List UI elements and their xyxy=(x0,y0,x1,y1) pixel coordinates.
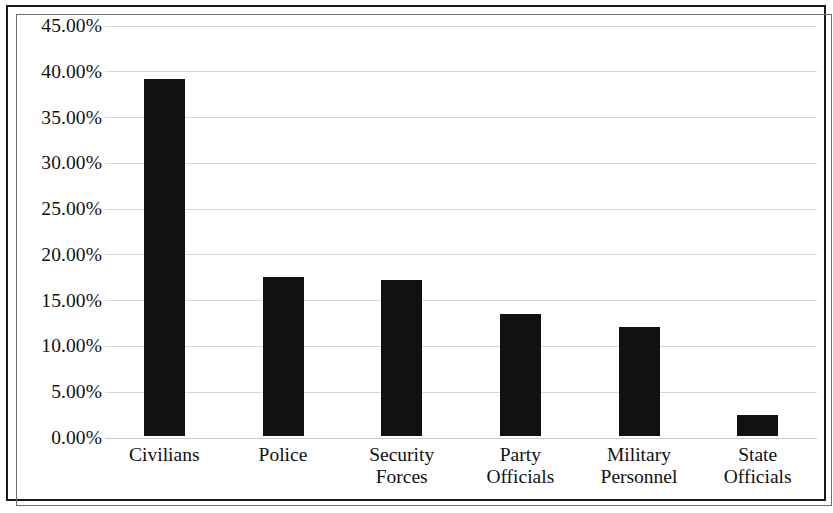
y-axis-tick-label: 20.00% xyxy=(6,245,102,265)
bar-police xyxy=(263,277,304,436)
x-axis-tick-label-line2: Officials xyxy=(461,466,580,488)
bar-military-personnel xyxy=(619,327,660,436)
x-axis-tick-label-line1: State xyxy=(738,444,777,465)
x-axis-tick-label-line2: Officials xyxy=(698,466,817,488)
bar-chart-figure: 0.00%5.00%10.00%15.00%20.00%25.00%30.00%… xyxy=(0,0,833,513)
y-axis: 0.00%5.00%10.00%15.00%20.00%25.00%30.00%… xyxy=(6,26,102,438)
x-axis-tick-label-line1: Security xyxy=(369,444,434,465)
y-axis-tick-label: 15.00% xyxy=(6,291,102,311)
x-axis-tick-label-line1: Party xyxy=(500,444,541,465)
y-axis-tick-label: 25.00% xyxy=(6,199,102,219)
y-axis-tick-label: 5.00% xyxy=(6,382,102,402)
x-axis-tick-label-line1: Civilians xyxy=(129,444,199,465)
x-axis-tick-label: Police xyxy=(224,444,343,466)
bars-layer xyxy=(105,26,817,438)
bar-security-forces xyxy=(381,280,422,436)
x-axis: CiviliansPoliceSecurityForcesPartyOffici… xyxy=(105,444,817,502)
y-axis-tick-label: 10.00% xyxy=(6,337,102,357)
y-axis-tick-label: 30.00% xyxy=(6,154,102,174)
x-axis-tick-label: StateOfficials xyxy=(698,444,817,488)
bar-party-officials xyxy=(500,314,541,436)
x-axis-tick-label: PartyOfficials xyxy=(461,444,580,488)
x-axis-tick-label-line2: Forces xyxy=(342,466,461,488)
y-axis-tick-label: 35.00% xyxy=(6,108,102,128)
x-axis-tick-label-line1: Police xyxy=(259,444,308,465)
x-axis-tick-label: Civilians xyxy=(105,444,224,466)
y-axis-tick-label: 0.00% xyxy=(6,428,102,448)
bar-state-officials xyxy=(737,415,778,436)
y-axis-tick-label: 40.00% xyxy=(6,62,102,82)
x-axis-tick-label-line2: Personnel xyxy=(580,466,699,488)
bar-civilians xyxy=(144,79,185,436)
y-axis-tick-label: 45.00% xyxy=(6,16,102,36)
x-axis-tick-label: SecurityForces xyxy=(342,444,461,488)
x-axis-tick-label-line1: Military xyxy=(607,444,671,465)
x-axis-tick-label: MilitaryPersonnel xyxy=(580,444,699,488)
